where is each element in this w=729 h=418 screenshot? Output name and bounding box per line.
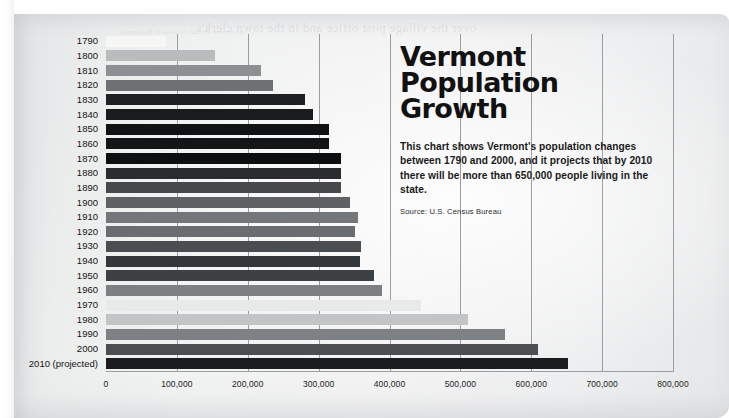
y-tick-label: 1860 <box>0 138 98 149</box>
bar-row <box>106 285 673 296</box>
bar-1870 <box>106 153 341 164</box>
bar-1820 <box>106 80 273 91</box>
bar-1990 <box>106 329 505 340</box>
bar-2000 <box>106 344 538 355</box>
bar-1950 <box>106 270 374 281</box>
bar-1790 <box>106 36 166 47</box>
bar-row <box>106 344 673 355</box>
x-tick-label: 600,000 <box>516 379 547 389</box>
bar-1960 <box>106 285 382 296</box>
x-tick-label: 800,000 <box>657 379 688 389</box>
y-tick-label: 1830 <box>0 94 98 105</box>
bar-1880 <box>106 168 341 179</box>
title-line-3: Growth <box>400 93 508 124</box>
bar-row <box>106 226 673 237</box>
y-tick-label: 1980 <box>0 314 98 325</box>
y-tick-label: 1930 <box>0 240 98 251</box>
x-axis-line <box>106 371 674 372</box>
bar-row <box>106 300 673 311</box>
y-tick-label: 2000 <box>0 343 98 354</box>
bar-1810 <box>106 65 261 76</box>
bar-1900 <box>106 197 350 208</box>
y-tick-label: 1950 <box>0 270 98 281</box>
y-tick-label: 1960 <box>0 284 98 295</box>
y-tick-label: 1810 <box>0 65 98 76</box>
y-tick-label: 1990 <box>0 328 98 339</box>
y-tick-label: 1880 <box>0 167 98 178</box>
y-tick-label: 1870 <box>0 153 98 164</box>
y-tick-label: 1910 <box>0 211 98 222</box>
x-axis-labels: 0100,000200,000300,000400,000500,000600,… <box>0 379 729 395</box>
bar-row <box>106 329 673 340</box>
chart-description: This chart shows Vermont's population ch… <box>400 140 658 198</box>
x-tick-label: 200,000 <box>232 379 263 389</box>
bar-1940 <box>106 256 360 267</box>
bar-1920 <box>106 226 355 237</box>
bar-1860 <box>106 138 329 149</box>
bar-1800 <box>106 50 215 61</box>
y-tick-label: 1840 <box>0 109 98 120</box>
source-attribution: Source: U.S. Census Bureau <box>400 207 690 216</box>
y-tick-label: 1800 <box>0 50 98 61</box>
page-title: Vermont Population Growth <box>400 44 690 122</box>
y-tick-label: 1940 <box>0 255 98 266</box>
bar-1980 <box>106 314 468 325</box>
bar-1830 <box>106 94 305 105</box>
x-tick-label: 300,000 <box>303 379 334 389</box>
y-tick-label: 1900 <box>0 197 98 208</box>
y-tick-label: 1850 <box>0 123 98 134</box>
x-tick-label: 0 <box>104 379 109 389</box>
y-tick-label: 2010 (projected) <box>0 358 98 369</box>
x-tick-label: 500,000 <box>445 379 476 389</box>
x-tick-label: 100,000 <box>161 379 192 389</box>
bar-1850 <box>106 124 329 135</box>
y-tick-label: 1970 <box>0 299 98 310</box>
bar-row <box>106 358 673 369</box>
bar-1930 <box>106 241 361 252</box>
headline-block: Vermont Population Growth This chart sho… <box>400 44 690 216</box>
bar-1840 <box>106 109 313 120</box>
y-tick-label: 1890 <box>0 182 98 193</box>
y-tick-label: 1920 <box>0 226 98 237</box>
bar-1890 <box>106 182 341 193</box>
bar-row <box>106 256 673 267</box>
x-tick-label: 700,000 <box>586 379 617 389</box>
bar-2010-projected- <box>106 358 568 369</box>
bar-row <box>106 314 673 325</box>
bar-row <box>106 241 673 252</box>
y-tick-label: 1790 <box>0 35 98 46</box>
bar-row <box>106 270 673 281</box>
bar-1910 <box>106 212 358 223</box>
x-tick-label: 400,000 <box>374 379 405 389</box>
y-tick-label: 1820 <box>0 79 98 90</box>
bar-1970 <box>106 300 421 311</box>
